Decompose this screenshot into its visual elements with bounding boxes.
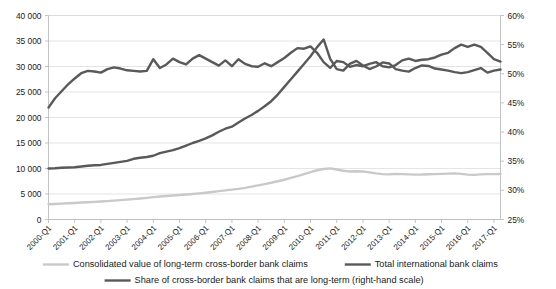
x-tick-label: 2003-Q1: [104, 223, 133, 252]
y-axis-right-ticks: 25%30%35%40%45%50%55%60%: [501, 11, 525, 225]
series-line-0: [49, 168, 501, 204]
y-left-tick-label: 20 000: [16, 113, 42, 123]
y-right-tick-label: 30%: [508, 185, 525, 195]
x-tick-label: 2011-Q1: [314, 223, 342, 251]
x-tick-label: 2001-Q1: [51, 223, 80, 252]
y-left-tick-label: 15 000: [16, 138, 42, 148]
x-tick-label: 2004-Q1: [130, 223, 159, 252]
y-left-tick-label: 0: [37, 215, 42, 225]
x-axis-ticks: 2000-Q12001-Q12002-Q12003-Q12004-Q12005-…: [25, 220, 499, 252]
y-right-tick-label: 60%: [508, 11, 525, 21]
y-left-tick-label: 25 000: [16, 87, 42, 97]
y-right-tick-label: 50%: [508, 69, 525, 79]
x-tick-label: 2007-Q1: [208, 223, 237, 252]
x-tick-label: 2017-Q1: [470, 223, 499, 252]
y-axis-left-ticks: 05 00010 00015 00020 00025 00030 00035 0…: [16, 11, 49, 225]
y-right-tick-label: 35%: [508, 156, 525, 166]
data-series-group: [49, 39, 501, 204]
legend-label-0: Consolidated value of long-term cross-bo…: [73, 259, 308, 269]
x-tick-label: 2015-Q1: [418, 223, 447, 252]
y-left-tick-label: 5 000: [21, 189, 42, 199]
y-left-tick-label: 10 000: [16, 164, 42, 174]
x-tick-label: 2008-Q1: [235, 223, 264, 252]
y-left-tick-label: 40 000: [16, 11, 42, 21]
y-left-tick-label: 35 000: [16, 36, 42, 46]
x-tick-label: 2006-Q1: [182, 223, 211, 252]
x-tick-label: 2000-Q1: [25, 223, 54, 252]
grid-lines: [49, 16, 501, 220]
y-right-tick-label: 55%: [508, 40, 525, 50]
y-left-tick-label: 30 000: [16, 62, 42, 72]
chart-canvas: 05 00010 00015 00020 00025 00030 00035 0…: [0, 0, 556, 289]
chart-legend: Consolidated value of long-term cross-bo…: [43, 259, 498, 285]
y-right-tick-label: 45%: [508, 98, 525, 108]
x-tick-label: 2009-Q1: [261, 223, 290, 252]
x-tick-label: 2002-Q1: [77, 223, 106, 252]
x-tick-label: 2005-Q1: [156, 223, 185, 252]
legend-label-1: Total international bank claims: [375, 259, 498, 269]
x-tick-label: 2014-Q1: [392, 223, 421, 252]
x-tick-label: 2012-Q1: [339, 223, 368, 252]
x-tick-label: 2013-Q1: [366, 223, 395, 252]
x-tick-label: 2016-Q1: [444, 223, 473, 252]
x-tick-label: 2010-Q1: [287, 223, 316, 252]
legend-label-2: Share of cross-border bank claims that a…: [135, 275, 424, 285]
y-right-tick-label: 25%: [508, 215, 525, 225]
y-right-tick-label: 40%: [508, 127, 525, 137]
